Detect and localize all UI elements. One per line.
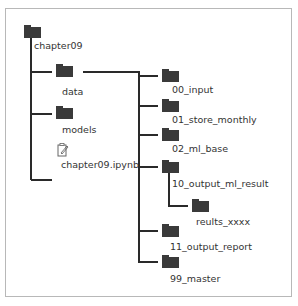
root-trunk-line (30, 38, 32, 180)
connector-models (31, 113, 52, 115)
connector-notebook (31, 179, 52, 181)
folder-icon[interactable] (162, 128, 179, 141)
folder-icon[interactable] (192, 199, 209, 212)
folder-results-xxxx-label[interactable]: reults_xxxx (196, 216, 250, 227)
folder-02-ml-base-label[interactable]: 02_ml_base (172, 143, 228, 154)
connector-00-input (138, 75, 158, 77)
notebook-file-label[interactable]: chapter09.ipynb (61, 159, 139, 170)
connector-01-store-monthly (138, 105, 158, 107)
folder-icon[interactable] (162, 224, 179, 237)
folder-icon[interactable] (56, 64, 73, 77)
root-folder-label[interactable]: chapter09 (34, 40, 83, 51)
folder-icon[interactable] (24, 25, 41, 38)
connector-data (31, 71, 52, 73)
folder-10-output-ml-result-label[interactable]: 10_output_ml_result (172, 178, 268, 189)
connector-02-ml-base (138, 134, 158, 136)
folder-11-output-report-label[interactable]: 11_output_report (170, 241, 252, 252)
folder-icon[interactable] (162, 255, 179, 268)
connector-11-output-report (138, 230, 158, 232)
connector-10-output-ml-result (138, 166, 158, 168)
folder-icon[interactable] (162, 69, 179, 82)
folder-01-store-monthly-label[interactable]: 01_store_monthly (172, 114, 257, 125)
data-folder-label[interactable]: data (62, 86, 83, 97)
folder-icon[interactable] (56, 106, 73, 119)
folder-icon[interactable] (162, 160, 179, 173)
notebook-edit-icon[interactable] (57, 143, 69, 157)
folder-00-input-label[interactable]: 00_input (172, 84, 213, 95)
models-folder-label[interactable]: models (62, 124, 97, 135)
data-to-trunk-line (83, 71, 140, 73)
folder-icon[interactable] (162, 99, 179, 112)
connector-results (168, 205, 188, 207)
connector-99-master (138, 261, 158, 263)
folder-99-master-label[interactable]: 99_master (170, 273, 220, 284)
result-trunk-line (168, 172, 170, 207)
diagram-frame (5, 8, 292, 297)
